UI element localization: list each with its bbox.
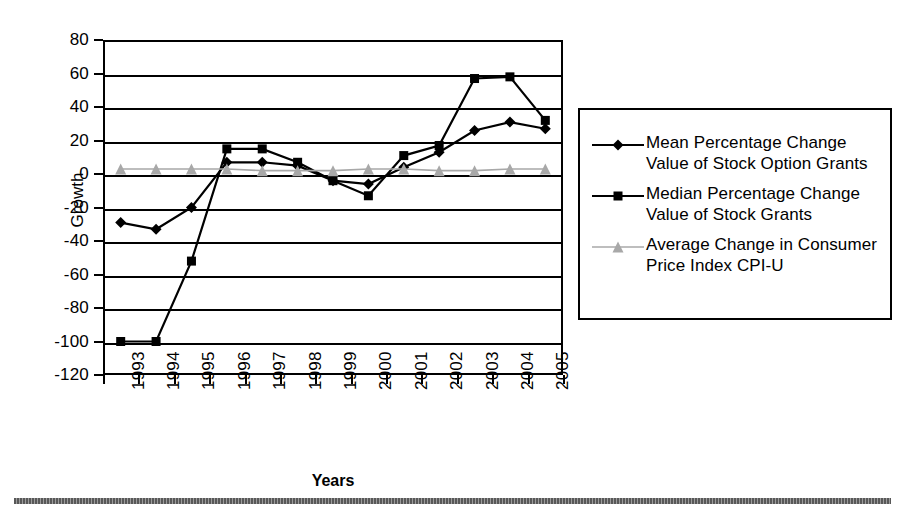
diamond-marker (469, 125, 480, 136)
page-rule-artifact (14, 498, 891, 504)
square-marker (364, 191, 373, 200)
legend-label-line1: Median Percentage Change (646, 183, 860, 204)
legend-label-line2: Value of Stock Grants (646, 204, 860, 225)
square-marker (505, 72, 514, 81)
square-marker (399, 151, 408, 160)
square-marker (470, 74, 479, 83)
square-marker (116, 337, 125, 346)
legend-label-line2: Value of Stock Option Grants (646, 153, 868, 174)
square-marker (329, 176, 338, 185)
legend-marker-square-marker (590, 185, 646, 207)
legend: Mean Percentage ChangeValue of Stock Opt… (578, 108, 892, 320)
square-marker (435, 141, 444, 150)
chart-figure: Growth 806040200-20-40-60-80-100-120 199… (0, 0, 905, 529)
square-marker (614, 192, 623, 201)
diamond-marker (504, 117, 515, 128)
square-marker (152, 337, 161, 346)
diamond-marker (115, 217, 126, 228)
series-triangle (115, 163, 551, 176)
legend-label-line1: Mean Percentage Change (646, 132, 868, 153)
square-marker (187, 257, 196, 266)
diamond-marker (363, 179, 374, 190)
legend-label-line1: Average Change in Consumer (646, 234, 877, 255)
legend-label-line2: Price Index CPI-U (646, 255, 877, 276)
legend-item[interactable]: Mean Percentage ChangeValue of Stock Opt… (590, 132, 882, 174)
legend-label: Average Change in ConsumerPrice Index CP… (646, 234, 877, 276)
square-marker (541, 116, 550, 125)
series-line (121, 77, 546, 342)
legend-marker-triangle-marker (590, 236, 646, 258)
legend-label: Mean Percentage ChangeValue of Stock Opt… (646, 132, 868, 174)
legend-marker-diamond-marker (590, 134, 646, 156)
diamond-marker (151, 224, 162, 235)
legend-label: Median Percentage ChangeValue of Stock G… (646, 183, 860, 225)
legend-item[interactable]: Median Percentage ChangeValue of Stock G… (590, 183, 882, 225)
diamond-marker (540, 123, 551, 134)
square-marker (222, 144, 231, 153)
legend-item[interactable]: Average Change in ConsumerPrice Index CP… (590, 234, 882, 276)
diamond-marker (613, 140, 624, 151)
square-marker (258, 144, 267, 153)
series-square (116, 72, 550, 346)
